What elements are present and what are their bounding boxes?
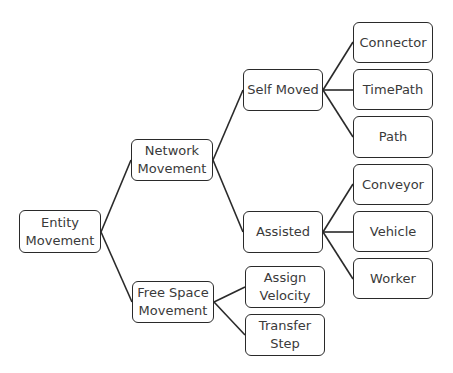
- node-timepath: TimePath: [353, 69, 433, 110]
- node-assisted: Assisted: [243, 211, 323, 253]
- edge-entity-to-freespace: [101, 232, 132, 302]
- node-network-movement: Network Movement: [131, 139, 213, 181]
- edge-freespace-to-transferstep: [214, 302, 245, 335]
- node-assign-velocity: Assign Velocity: [245, 266, 325, 308]
- edge-assisted-to-worker: [323, 232, 353, 279]
- edge-selfmoved-to-connector: [323, 42, 353, 90]
- edge-freespace-to-assignvelocity: [214, 287, 245, 302]
- node-conveyor: Conveyor: [353, 164, 433, 205]
- edge-network-to-selfmoved: [213, 90, 243, 160]
- node-self-moved: Self Moved: [243, 69, 323, 111]
- node-path: Path: [353, 116, 433, 158]
- edge-entity-to-network: [101, 160, 131, 232]
- node-vehicle: Vehicle: [353, 211, 433, 252]
- node-entity-movement: Entity Movement: [19, 210, 101, 253]
- entity-movement-tree-diagram: Entity Movement Network Movement Free Sp…: [0, 0, 453, 373]
- edge-selfmoved-to-path: [323, 90, 353, 137]
- node-transfer-step: Transfer Step: [245, 314, 325, 356]
- node-worker: Worker: [353, 258, 433, 299]
- node-free-space-movement: Free Space Movement: [132, 281, 214, 323]
- edge-network-to-assisted: [213, 160, 243, 232]
- node-connector: Connector: [353, 22, 433, 63]
- edge-assisted-to-conveyor: [323, 184, 353, 232]
